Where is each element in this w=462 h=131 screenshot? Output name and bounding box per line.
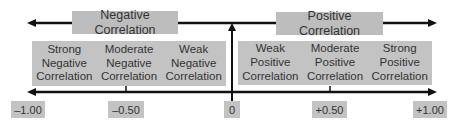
- negative-band: Strong Negative Correlation Moderate Neg…: [32, 41, 226, 86]
- positive-correlation-label: Positive Correlation: [276, 12, 383, 35]
- weak-positive-cell: Weak Positive Correlation: [238, 41, 303, 85]
- moderate-positive-cell: Moderate Positive Correlation: [303, 41, 368, 85]
- tick-label-plus-1: +1.00: [413, 101, 447, 118]
- tick-label-minus-1: –1.00: [11, 101, 45, 118]
- negative-correlation-label: Negative Correlation: [72, 11, 178, 34]
- strong-negative-cell: Strong Negative Correlation: [32, 41, 97, 86]
- moderate-negative-cell: Moderate Negative Correlation: [97, 41, 162, 86]
- positive-band: Weak Positive Correlation Moderate Posit…: [238, 41, 432, 85]
- tick-label-plus-0-5: +0.50: [312, 101, 347, 118]
- tick-label-minus-0-5: –0.50: [108, 101, 144, 118]
- tick-label-zero: 0: [224, 101, 240, 118]
- weak-negative-cell: Weak Negative Correlation: [161, 41, 226, 86]
- strong-positive-cell: Strong Positive Correlation: [367, 41, 432, 85]
